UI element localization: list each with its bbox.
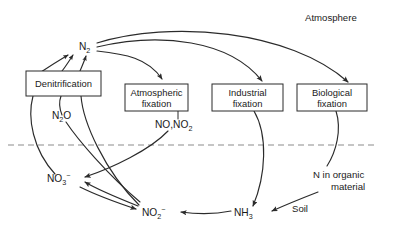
flow-n2-to-industrial-fixation: [97, 40, 262, 81]
species-no3-base: NO: [47, 173, 62, 184]
process-box-industrial-fixation[interactable]: Industrial fixation: [212, 84, 283, 111]
species-label-no3: NO3−: [47, 171, 70, 187]
organic-nitrogen-label: N in organic material: [313, 169, 365, 192]
svg-text:NH3: NH3: [234, 207, 253, 221]
svg-text:N2: N2: [79, 41, 90, 55]
zone-label-atmosphere: Atmosphere: [305, 12, 357, 23]
species-no2-base: NO: [142, 207, 157, 218]
flow-no3-to-no2: [80, 187, 136, 209]
organic-nitrogen-label-line1: N in organic: [313, 169, 364, 180]
process-box-biological-fixation[interactable]: Biological fixation: [297, 84, 367, 111]
species-n2o-base: N: [52, 110, 59, 121]
process-box-biological-fixation-label-line2: fixation: [317, 98, 347, 109]
flow-industrial-fixation-to-nh3: [253, 111, 264, 206]
process-box-industrial-fixation-label-line2: fixation: [233, 98, 263, 109]
flow-biological-fixation-to-organic-n: [327, 111, 338, 166]
process-box-industrial-fixation-label-line1: Industrial: [228, 87, 266, 98]
species-label-n2: N2: [79, 41, 90, 55]
species-n2-base: N: [79, 41, 86, 52]
species-label-no2: NO2−: [142, 205, 165, 221]
species-label-no-no2: NO,NO2: [155, 119, 192, 133]
svg-text:NO,NO2: NO,NO2: [155, 119, 192, 133]
organic-nitrogen-label-line2: material: [331, 181, 365, 192]
species-nh3-sub: 3: [249, 212, 253, 221]
flow-denitrification-to-n2-left: [41, 55, 68, 72]
svg-text:NO2−: NO2−: [142, 205, 165, 221]
species-no-no2-base: NO,NO: [155, 119, 188, 130]
flow-denitrification-n2o-stub: [59, 96, 62, 115]
process-box-biological-fixation-label-line1: Biological: [312, 87, 352, 98]
species-n2o-tail: O: [63, 110, 71, 121]
flow-denitrification-down-left: [31, 96, 55, 174]
process-box-atmospheric-fixation[interactable]: Atmospheric fixation: [125, 84, 188, 111]
flow-nh3-to-no2: [181, 211, 231, 213]
nitrogen-cycle-diagram: Denitrification Atmospheric fixation Ind…: [0, 0, 393, 237]
diagram-canvas: Denitrification Atmospheric fixation Ind…: [0, 0, 393, 237]
flow-n2-to-atmospheric-fixation: [97, 51, 162, 79]
process-box-atmospheric-fixation-label-line2: fixation: [142, 98, 172, 109]
species-no-no2-sub: 2: [188, 124, 192, 133]
flow-n2-to-biological-fixation: [97, 31, 348, 82]
species-n2-sub: 2: [86, 46, 90, 55]
svg-text:N2O: N2O: [52, 110, 71, 124]
process-box-denitrification[interactable]: Denitrification: [26, 71, 101, 96]
species-nh3-base: NH: [234, 207, 249, 218]
species-no2-sup: −: [161, 205, 165, 214]
process-box-denitrification-label: Denitrification: [35, 78, 92, 89]
species-label-n2o: N2O: [52, 110, 71, 124]
process-box-atmospheric-fixation-label-line1: Atmospheric: [130, 87, 182, 98]
zone-label-soil: Soil: [292, 203, 308, 214]
flow-denitrification-to-n2-right: [80, 56, 86, 71]
flow-n2o-to-no2: [66, 122, 140, 202]
svg-text:NO3−: NO3−: [47, 171, 70, 187]
flow-no-no2-to-no3: [85, 131, 168, 177]
species-no3-sup: −: [66, 171, 70, 180]
flow-denitrification-to-no2: [81, 96, 139, 205]
species-label-nh3: NH3: [234, 207, 253, 221]
